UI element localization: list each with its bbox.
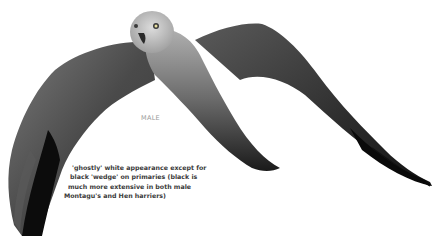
bird-head (130, 11, 174, 53)
right-wing (195, 24, 432, 186)
caption-line-3: much more extensive in both male (64, 182, 206, 191)
caption-line-2: black 'wedge' on primaries (black is (64, 172, 206, 181)
sex-label: MALE (141, 114, 160, 122)
caption-line-1: 'ghostly' white appearance except for (64, 163, 206, 172)
bird-illustration (0, 0, 439, 237)
caption: 'ghostly' white appearance except for bl… (64, 163, 206, 200)
left-wing (8, 42, 155, 236)
caption-line-4: Montagu's and Hen harriers) (64, 191, 206, 200)
